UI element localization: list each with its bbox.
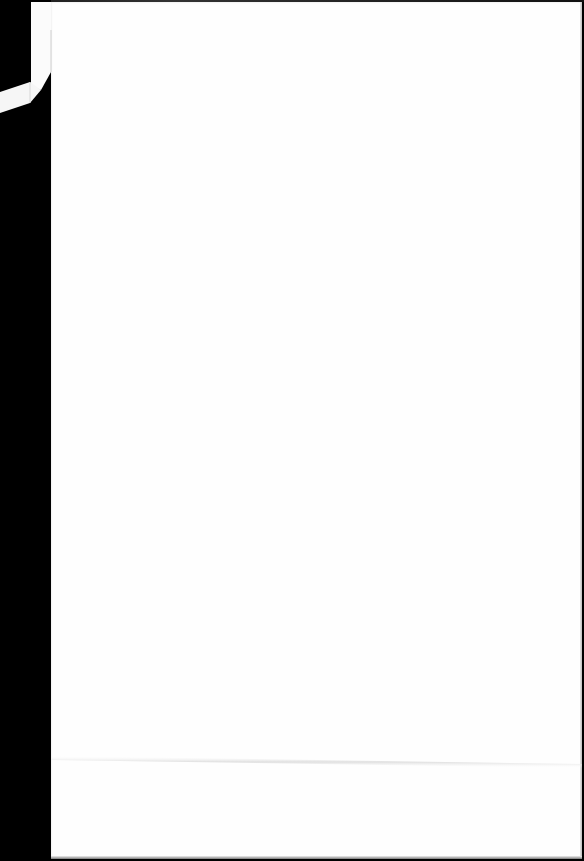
folded-corner bbox=[0, 0, 60, 130]
paper-bottom-edge bbox=[51, 856, 582, 859]
photo-scene bbox=[0, 0, 584, 861]
paper-right-edge bbox=[580, 2, 582, 859]
paper-crease bbox=[51, 754, 582, 770]
blank-paper-sheet bbox=[51, 2, 582, 859]
